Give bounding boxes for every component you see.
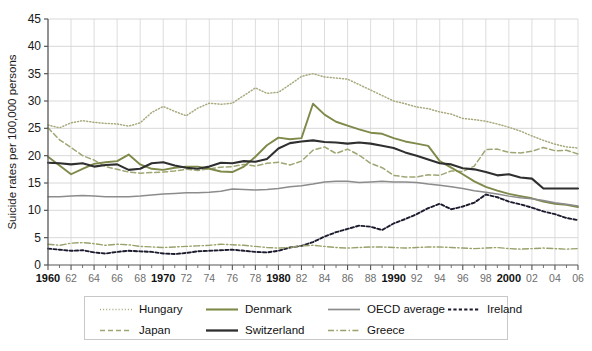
legend-label: Denmark <box>245 303 292 315</box>
chart-figure: 051015202530354045Suicide rates per 100,… <box>0 0 592 351</box>
legend-item-oecd-average[interactable]: OECD average <box>327 298 445 320</box>
legend-item-japan[interactable]: Japan <box>99 319 170 341</box>
legend-item-ireland[interactable]: Ireland <box>447 298 522 320</box>
legend-label: OECD average <box>367 303 445 315</box>
y-tick-label: 0 <box>34 258 41 272</box>
legend-label: Hungary <box>139 303 182 315</box>
y-tick-label: 40 <box>28 39 42 53</box>
x-tick-label: 66 <box>111 272 123 284</box>
x-tick-label: 86 <box>342 272 354 284</box>
legend-item-denmark[interactable]: Denmark <box>205 298 292 320</box>
x-tick-label: 02 <box>526 272 538 284</box>
x-tick-label: 68 <box>134 272 146 284</box>
x-tick-label: 04 <box>549 272 561 284</box>
x-tick-label: 78 <box>250 272 262 284</box>
y-tick-label: 35 <box>28 67 42 81</box>
legend-swatch-japan <box>99 325 133 336</box>
y-tick-label: 5 <box>34 231 41 245</box>
legend-label: Japan <box>139 324 170 336</box>
legend-swatch-ireland <box>447 304 481 315</box>
plot-background <box>48 19 578 265</box>
x-tick-label: 2000 <box>497 272 521 284</box>
x-tick-label: 06 <box>572 272 584 284</box>
x-tick-label: 94 <box>434 272 446 284</box>
legend-swatch-denmark <box>205 304 239 315</box>
x-tick-label: 76 <box>227 272 239 284</box>
x-tick-label: 64 <box>88 272 100 284</box>
legend-row-1: HungaryDenmarkOECD averageIreland <box>85 298 509 320</box>
y-tick-label: 20 <box>28 149 42 163</box>
legend-label: Switzerland <box>245 324 304 336</box>
line-chart: 051015202530354045Suicide rates per 100,… <box>0 0 592 292</box>
y-tick-label: 45 <box>28 12 42 26</box>
y-tick-label: 15 <box>28 176 42 190</box>
legend-swatch-switzerland <box>205 325 239 336</box>
x-tick-label: 1960 <box>36 272 60 284</box>
x-tick-label: 1980 <box>266 272 290 284</box>
chart-legend: HungaryDenmarkOECD averageIreland JapanS… <box>84 296 508 340</box>
y-tick-label: 10 <box>28 203 42 217</box>
x-tick-label: 92 <box>411 272 423 284</box>
legend-label: Ireland <box>487 303 522 315</box>
legend-swatch-greece <box>327 325 361 336</box>
x-tick-label: 96 <box>457 272 469 284</box>
legend-swatch-oecd-average <box>327 304 361 315</box>
x-tick-label: 72 <box>180 272 192 284</box>
legend-swatch-hungary <box>99 304 133 315</box>
legend-item-switzerland[interactable]: Switzerland <box>205 319 304 341</box>
legend-row-2: JapanSwitzerlandGreece <box>85 319 509 341</box>
legend-label: Greece <box>367 324 405 336</box>
x-tick-label: 84 <box>319 272 331 284</box>
y-tick-label: 25 <box>28 121 42 135</box>
x-tick-label: 82 <box>296 272 308 284</box>
y-axis-title: Suicide rates per 100,000 persons <box>6 54 18 229</box>
x-tick-label: 1970 <box>151 272 175 284</box>
x-tick-label: 98 <box>480 272 492 284</box>
legend-item-greece[interactable]: Greece <box>327 319 405 341</box>
legend-item-hungary[interactable]: Hungary <box>99 298 182 320</box>
x-tick-label: 88 <box>365 272 377 284</box>
x-tick-label: 62 <box>65 272 77 284</box>
x-tick-label: 74 <box>203 272 215 284</box>
y-tick-label: 30 <box>28 94 42 108</box>
x-tick-label: 1990 <box>381 272 405 284</box>
